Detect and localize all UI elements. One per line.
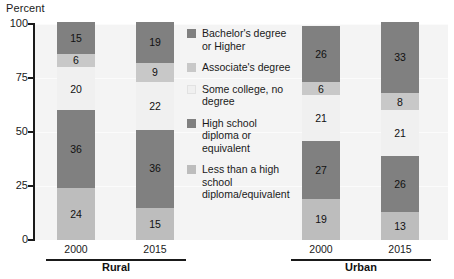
legend-swatch bbox=[187, 119, 196, 128]
legend-label: Associate's degree bbox=[202, 61, 290, 74]
bar-segment[interactable]: 15 bbox=[136, 208, 174, 240]
stacked-bar[interactable]: 243620615 bbox=[57, 24, 95, 240]
y-axis-tick bbox=[28, 185, 34, 187]
bar-segment[interactable]: 13 bbox=[381, 212, 419, 240]
x-axis-tick-label: 2000 bbox=[46, 243, 106, 255]
bar-segment[interactable]: 24 bbox=[57, 188, 95, 240]
y-axis-tick bbox=[28, 239, 34, 241]
bar-segment-value: 6 bbox=[73, 55, 79, 66]
bar-segment-value: 19 bbox=[149, 37, 161, 48]
bar-segment-value: 15 bbox=[149, 219, 161, 230]
bar-segment-value: 27 bbox=[315, 165, 327, 176]
bar-segment-value: 6 bbox=[318, 84, 324, 95]
legend-label: Less than a high school diploma/equivale… bbox=[202, 163, 291, 201]
y-axis-tick bbox=[28, 131, 34, 133]
stacked-bar-chart: Percent 0255075100 243620615153622919192… bbox=[0, 0, 454, 279]
stacked-bar[interactable]: 132621833 bbox=[381, 24, 419, 240]
y-axis-tick-label: 75 bbox=[0, 71, 28, 83]
legend-item[interactable]: Less than a high school diploma/equivale… bbox=[187, 163, 291, 201]
bar-segment-value: 13 bbox=[394, 221, 406, 232]
bar-segment[interactable]: 36 bbox=[136, 130, 174, 208]
bar-segment[interactable]: 8 bbox=[381, 93, 419, 110]
bar-segment-value: 20 bbox=[70, 84, 82, 95]
group-label: Urban bbox=[301, 261, 421, 273]
legend-label: Bachelor's degree or Higher bbox=[202, 27, 291, 52]
legend-label: High school diploma or equivalent bbox=[202, 117, 291, 155]
y-axis-tick bbox=[28, 77, 34, 79]
bar-segment-value: 26 bbox=[394, 179, 406, 190]
bar-segment-value: 26 bbox=[315, 49, 327, 60]
bar-segment[interactable]: 15 bbox=[57, 22, 95, 54]
bar-segment[interactable]: 9 bbox=[136, 63, 174, 82]
legend-item[interactable]: Bachelor's degree or Higher bbox=[187, 27, 291, 52]
stacked-bar[interactable]: 153622919 bbox=[136, 24, 174, 240]
bar-segment-value: 9 bbox=[152, 67, 158, 78]
bar-segment[interactable]: 19 bbox=[302, 199, 340, 240]
bar-segment-value: 24 bbox=[70, 209, 82, 220]
legend-item[interactable]: Associate's degree bbox=[187, 61, 291, 74]
bar-segment[interactable]: 26 bbox=[381, 156, 419, 212]
bar-segment[interactable]: 21 bbox=[302, 95, 340, 140]
legend-swatch bbox=[187, 29, 196, 38]
x-axis-tick-label: 2000 bbox=[291, 243, 351, 255]
bar-segment-value: 21 bbox=[315, 113, 327, 124]
y-axis-tick-label: 25 bbox=[0, 179, 28, 191]
legend-item[interactable]: Some college, no degree bbox=[187, 83, 291, 108]
legend-swatch bbox=[187, 85, 196, 94]
legend-swatch bbox=[187, 165, 196, 174]
y-axis-tick-label: 100 bbox=[0, 17, 28, 29]
legend-swatch bbox=[187, 63, 196, 72]
bar-segment[interactable]: 6 bbox=[302, 82, 340, 95]
bar-segment-value: 8 bbox=[397, 97, 403, 108]
bar-segment[interactable]: 26 bbox=[302, 26, 340, 82]
bar-segment[interactable]: 33 bbox=[381, 22, 419, 93]
legend-label: Some college, no degree bbox=[202, 83, 291, 108]
bar-segment-value: 36 bbox=[70, 144, 82, 155]
bar-segment[interactable]: 21 bbox=[381, 110, 419, 155]
bar-segment[interactable]: 19 bbox=[136, 22, 174, 63]
x-axis-tick-label: 2015 bbox=[125, 243, 185, 255]
chart-legend: Bachelor's degree or HigherAssociate's d… bbox=[187, 27, 291, 210]
bar-segment-value: 21 bbox=[394, 128, 406, 139]
y-axis-title: Percent bbox=[6, 2, 45, 14]
group-label: Rural bbox=[56, 261, 176, 273]
stacked-bar[interactable]: 192721626 bbox=[302, 24, 340, 240]
bar-segment-value: 22 bbox=[149, 101, 161, 112]
bar-segment[interactable]: 6 bbox=[57, 54, 95, 67]
x-axis-tick-label: 2015 bbox=[370, 243, 430, 255]
y-axis-tick-label: 50 bbox=[0, 125, 28, 137]
bar-segment[interactable]: 22 bbox=[136, 82, 174, 130]
bar-segment-value: 19 bbox=[315, 214, 327, 225]
y-axis-tick-label: 0 bbox=[0, 233, 28, 245]
bar-segment-value: 15 bbox=[70, 33, 82, 44]
bar-segment-value: 36 bbox=[149, 163, 161, 174]
y-axis-tick bbox=[28, 23, 34, 25]
bar-segment[interactable]: 27 bbox=[302, 141, 340, 199]
legend-item[interactable]: High school diploma or equivalent bbox=[187, 117, 291, 155]
bar-segment[interactable]: 36 bbox=[57, 110, 95, 188]
bar-segment-value: 33 bbox=[394, 52, 406, 63]
bar-segment[interactable]: 20 bbox=[57, 67, 95, 110]
